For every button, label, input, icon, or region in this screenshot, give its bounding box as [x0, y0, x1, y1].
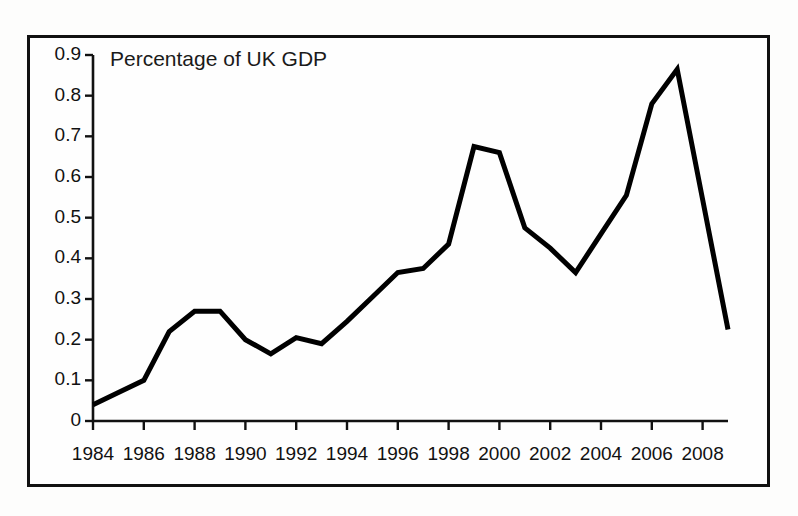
figure-root: Percentage of UK GDP 0.90.80.70.60.50.40…	[0, 0, 798, 516]
y-axis-tick-label: 0.9	[25, 43, 81, 65]
y-axis-tick-label: 0.7	[25, 124, 81, 146]
y-axis-tick-label: 0.2	[25, 328, 81, 350]
y-axis-tick-label: 0	[25, 409, 81, 431]
chart-border-frame	[27, 35, 770, 487]
y-axis-tick-label: 0.3	[25, 287, 81, 309]
y-axis-tick-label: 0.8	[25, 84, 81, 106]
y-axis-tick-label: 0.4	[25, 246, 81, 268]
x-axis-tick-label: 2008	[673, 443, 733, 465]
y-axis-tick-label: 0.5	[25, 206, 81, 228]
plot-title: Percentage of UK GDP	[110, 47, 327, 71]
y-axis-tick-label: 0.1	[25, 368, 81, 390]
y-axis-tick-label: 0.6	[25, 165, 81, 187]
